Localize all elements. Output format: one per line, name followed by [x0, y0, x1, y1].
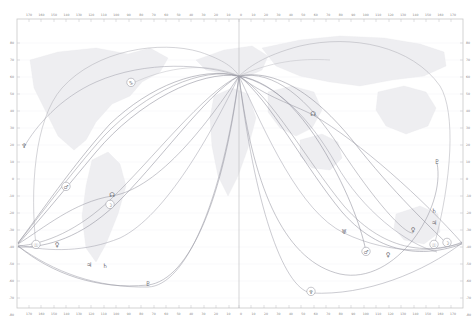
x-tick-label-bottom-10-18: 10 [251, 312, 255, 316]
x-tick-label-top-0-17: 0 [240, 13, 242, 17]
x-tick-label-top-140-31: 140 [413, 13, 419, 17]
x-tick-label-top-90-8: 90 [127, 13, 131, 17]
marker-neptune-icon[interactable]: ♆ [307, 287, 315, 295]
marker-northnode-icon[interactable]: ☊ [109, 191, 115, 199]
y-tick-label-right-60: 60 [466, 75, 470, 79]
x-tick-label-bottom-70-24: 70 [326, 312, 330, 316]
marker-moon-icon[interactable]: ☽ [106, 200, 114, 208]
x-tick-label-top-20-19: 20 [264, 13, 268, 17]
x-tick-label-top-150-2: 150 [51, 13, 57, 17]
y-tick-label-left-50: 50 [10, 92, 14, 96]
x-tick-label-top-170-34: 170 [450, 13, 456, 17]
glyph-sun: ☉ [431, 242, 436, 248]
y-tick-label-left-80: 80 [10, 41, 14, 45]
y-tick-label-left-30: 30 [10, 126, 14, 130]
x-tick-label-top-160-1: 160 [39, 13, 45, 17]
marker-capricorn-icon[interactable]: ♑ [127, 78, 135, 86]
y-tick-label-left--10: -10 [9, 194, 14, 198]
x-tick-label-top-40-13: 40 [189, 13, 193, 17]
x-tick-label-bottom-120-5: 120 [88, 312, 94, 316]
y-tick-label-right--10: -10 [466, 194, 471, 198]
x-axis-labels-bottom: 1701601501401301201101009080706050403020… [26, 312, 456, 316]
y-tick-label-right--20: -20 [466, 211, 471, 215]
x-tick-label-top-130-4: 130 [76, 13, 82, 17]
y-tick-label-right--60: -60 [466, 279, 471, 283]
x-axis-ticks-top [29, 19, 451, 22]
x-tick-label-top-10-18: 10 [251, 13, 255, 17]
y-tick-label-left-40: 40 [10, 109, 14, 113]
x-tick-label-top-40-21: 40 [289, 13, 293, 17]
x-tick-label-top-30-20: 30 [276, 13, 280, 17]
x-tick-label-top-20-15: 20 [214, 13, 218, 17]
marker-mars-icon[interactable]: ♂ [62, 182, 70, 190]
x-tick-label-bottom-100-7: 100 [113, 312, 119, 316]
glyph-uranus: ♅ [341, 228, 347, 236]
marker-saturn-icon[interactable]: ♄ [431, 207, 437, 215]
y-tick-label-left-70: 70 [10, 58, 14, 62]
x-tick-label-bottom-150-2: 150 [51, 312, 57, 316]
marker-pluto-icon[interactable]: ♇ [145, 280, 151, 288]
marker-sun-icon[interactable]: ☉ [32, 240, 40, 248]
y-tick-label-left--20: -20 [9, 211, 14, 215]
x-tick-label-bottom-60-23: 60 [314, 312, 318, 316]
y-tick-label-left-60: 60 [10, 75, 14, 79]
marker-neptune-icon[interactable]: ♆ [21, 142, 27, 150]
x-tick-label-bottom-50-22: 50 [301, 312, 305, 316]
marker-mars-icon[interactable]: ♂ [362, 247, 370, 255]
x-tick-label-bottom-140-3: 140 [63, 312, 69, 316]
marker-venus-icon[interactable]: ♀ [55, 241, 60, 249]
x-tick-label-bottom-130-30: 130 [400, 312, 406, 316]
x-tick-label-top-90-26: 90 [351, 13, 355, 17]
x-tick-label-top-70-10: 70 [152, 13, 156, 17]
y-tick-label-right-20: 20 [466, 143, 470, 147]
y-tick-label-right-50: 50 [466, 92, 470, 96]
glyph-saturn: ♄ [431, 207, 437, 215]
y-tick-label-left--30: -30 [9, 228, 14, 232]
x-tick-label-bottom-80-25: 80 [339, 312, 343, 316]
x-tick-label-bottom-120-29: 120 [388, 312, 394, 316]
marker-sun-icon[interactable]: ☉ [430, 240, 438, 248]
chart-canvas[interactable]: ♆♑♂☊☽♀☉♃♄♇☊♇♄♃♀☉☽♂♀♅♆ 170160150140130120… [0, 0, 474, 329]
x-tick-label-bottom-20-19: 20 [264, 312, 268, 316]
x-tick-label-bottom-170-34: 170 [450, 312, 456, 316]
x-tick-label-bottom-80-9: 80 [139, 312, 143, 316]
y-tick-label-left--70: -70 [9, 296, 14, 300]
marker-saturn-icon[interactable]: ♄ [102, 262, 108, 270]
x-tick-label-bottom-90-26: 90 [351, 312, 355, 316]
x-tick-label-top-110-6: 110 [101, 13, 107, 17]
x-tick-label-bottom-140-31: 140 [413, 312, 419, 316]
glyph-saturn: ♄ [102, 262, 108, 270]
x-tick-label-top-120-29: 120 [388, 13, 394, 17]
glyph-jupiter: ♃ [86, 261, 92, 269]
x-tick-label-bottom-130-4: 130 [76, 312, 82, 316]
x-tick-label-bottom-30-20: 30 [276, 312, 280, 316]
x-tick-label-bottom-110-6: 110 [101, 312, 107, 316]
x-axis-labels-top: 1701601501401301201101009080706050403020… [26, 13, 456, 17]
marker-northnode-icon[interactable]: ☊ [310, 110, 316, 118]
astrocartography-chart: ♆♑♂☊☽♀☉♃♄♇☊♇♄♃♀☉☽♂♀♅♆ 170160150140130120… [0, 0, 474, 329]
y-tick-label-left--60: -60 [9, 279, 14, 283]
marker-uranus-icon[interactable]: ♅ [341, 228, 347, 236]
glyph-neptune: ♆ [21, 142, 27, 150]
y-tick-label-left--80: -80 [9, 313, 14, 317]
marker-venus-icon[interactable]: ♀ [386, 251, 391, 259]
y-axis-labels-right: 80706050403020100-10-20-30-40-50-60-70-8… [466, 41, 471, 317]
marker-jupiter-icon[interactable]: ♃ [86, 261, 92, 269]
x-tick-label-top-80-9: 80 [139, 13, 143, 17]
marker-jupiter-icon[interactable]: ♃ [431, 219, 437, 227]
glyph-venus: ♀ [55, 241, 60, 249]
x-tick-label-bottom-160-1: 160 [39, 312, 45, 316]
x-tick-label-top-60-11: 60 [164, 13, 168, 17]
y-tick-label-right-30: 30 [466, 126, 470, 130]
x-tick-label-bottom-50-12: 50 [177, 312, 181, 316]
marker-pluto-icon[interactable]: ♇ [434, 158, 440, 166]
marker-venus-icon[interactable]: ♀ [411, 226, 416, 234]
x-tick-label-bottom-30-14: 30 [202, 312, 206, 316]
y-tick-label-right--30: -30 [466, 228, 471, 232]
x-tick-label-bottom-10-16: 10 [227, 312, 231, 316]
marker-moon-icon[interactable]: ☽ [443, 238, 451, 246]
y-tick-label-left--50: -50 [9, 262, 14, 266]
glyph-northnode: ☊ [310, 110, 316, 118]
y-tick-label-left-20: 20 [10, 143, 14, 147]
glyph-neptune: ♆ [308, 289, 313, 295]
